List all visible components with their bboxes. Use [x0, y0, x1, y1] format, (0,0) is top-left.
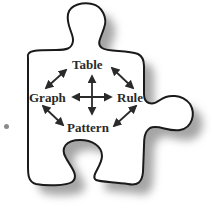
bullet-dot — [4, 124, 9, 129]
node-pattern: Pattern — [67, 121, 109, 134]
node-graph: Graph — [29, 91, 66, 104]
node-table: Table — [72, 58, 103, 71]
puzzle-piece-graphic — [0, 0, 219, 210]
puzzle-diagram: Table Graph Rule Pattern — [0, 0, 219, 210]
node-rule: Rule — [117, 91, 143, 104]
